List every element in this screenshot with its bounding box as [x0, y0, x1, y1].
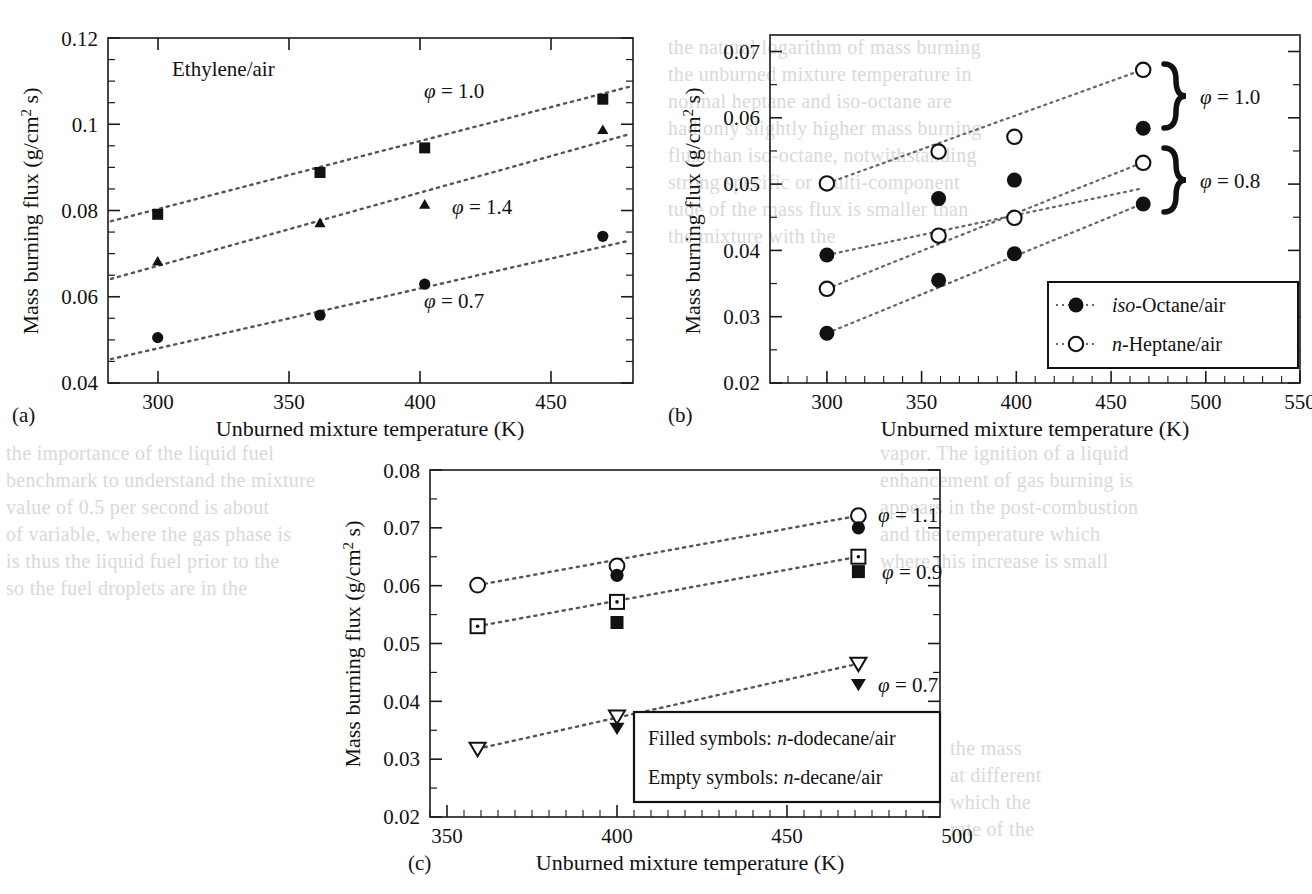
annotation-c-phi-0-7: φ = 0.7 [878, 673, 938, 697]
y-tick-label-c-5: 0.03 [383, 747, 420, 771]
x-tick-label-a-0: 300 [142, 390, 174, 414]
panel-b: 0.07 0.06 0.05 0.04 0.03 0.02 300 350 40… [660, 0, 1312, 440]
svg-text:Mass burning flux (g/cm2 s): Mass burning flux (g/cm2 s) [18, 87, 43, 334]
annotation-a-phi-0-7: φ = 0.7 [424, 289, 484, 313]
legend-c[interactable]: Filled symbols: n-dodecane/air Empty sym… [634, 712, 940, 802]
panel-a-svg: 0.12 0.1 0.08 0.06 0.04 300 350 400 450 … [0, 0, 660, 440]
y-tick-label-c-6: 0.02 [383, 805, 420, 829]
data-point-center [615, 600, 619, 604]
data-point [1136, 63, 1150, 77]
x-tick-label-c-0: 350 [431, 824, 463, 848]
x-tick-label-b-5: 550 [1284, 390, 1312, 414]
series-a-phi-1-4 [152, 124, 608, 265]
fit-line-b-heptane-1-0 [827, 70, 1142, 183]
x-tick-label-a-1: 350 [273, 390, 305, 414]
series-c-dodecane-0-9 [611, 565, 865, 629]
open-circle-icon [1069, 337, 1083, 351]
y-ticks-major-a [108, 38, 120, 383]
data-point [152, 332, 163, 343]
data-point [314, 310, 325, 321]
fit-line-b-octane-1-0 [827, 188, 1142, 255]
y-tick-label-a-3: 0.06 [61, 285, 98, 309]
series-c-dodecane-1-1 [610, 521, 865, 582]
annotation-a-phi-1-4: φ = 1.4 [452, 195, 513, 219]
y-ticks-minor-b [770, 85, 777, 350]
data-point [597, 124, 608, 134]
data-point [931, 229, 945, 243]
panel-a-caption: Ethylene/air [172, 57, 275, 81]
annotation-c-phi-0-9: φ = 0.9 [882, 560, 942, 584]
y-tick-label-c-4: 0.04 [383, 690, 420, 714]
legend-label-c-1: Empty symbols: n-decane/air [648, 766, 883, 789]
data-point [152, 256, 163, 266]
y-axis-title-b: Mass burning flux (g/cm2 s) [680, 87, 705, 334]
data-point [931, 273, 946, 288]
panel-c-svg: 0.08 0.07 0.06 0.05 0.04 0.03 0.02 350 4… [300, 440, 1020, 894]
x-tick-label-b-4: 500 [1190, 390, 1222, 414]
panel-label-a: (a) [12, 403, 35, 427]
x-tick-label-c-2: 450 [771, 824, 803, 848]
data-point [470, 578, 485, 593]
y-tick-label-b-3: 0.04 [723, 239, 760, 263]
panel-label-b: (b) [668, 403, 693, 427]
y-tick-label-c-2: 0.06 [383, 574, 420, 598]
legend-label-b-0: iso-Octane/air [1112, 294, 1226, 316]
x-tick-label-b-1: 350 [906, 390, 938, 414]
fit-line-a-phi-1-4 [111, 134, 630, 279]
data-point [852, 565, 865, 578]
data-point [610, 569, 623, 582]
brace-b-phi-0-8 [1164, 148, 1186, 212]
x-tick-label-c-3: 500 [941, 824, 973, 848]
data-point [851, 508, 866, 523]
data-point [931, 191, 946, 206]
data-point [597, 231, 608, 242]
annotation-c-phi-1-1: φ = 1.1 [878, 503, 938, 527]
series-b-heptane-0-8 [820, 156, 1151, 296]
data-point [609, 710, 625, 724]
data-point-center [476, 624, 480, 628]
data-point [611, 616, 624, 629]
y-axis-title-a: Mass burning flux (g/cm2 s) [18, 87, 43, 334]
fit-line-c-phi-1-1 [478, 516, 859, 585]
data-point [931, 144, 945, 158]
y-ticks-right-a [621, 38, 633, 383]
data-point [419, 142, 430, 153]
data-point [470, 743, 486, 757]
data-point [610, 723, 625, 735]
data-point [1007, 211, 1021, 225]
series-a-phi-1-0 [152, 94, 608, 220]
x-axis-title-c: Unburned mixture temperature (K) [536, 850, 845, 875]
panel-c: 0.08 0.07 0.06 0.05 0.04 0.03 0.02 350 4… [300, 440, 1020, 894]
x-axis-title-a: Unburned mixture temperature (K) [216, 416, 525, 441]
bleed-text-mid-left: the importance of the liquid fuel benchm… [6, 440, 315, 602]
y-tick-label-c-0: 0.08 [383, 459, 420, 483]
data-point [1007, 173, 1022, 188]
y-axis-title-c: Mass burning flux (g/cm2 s) [340, 520, 365, 767]
annotation-b-phi-0-8: φ = 0.8 [1200, 169, 1260, 193]
data-point [819, 326, 834, 341]
data-point [820, 282, 834, 296]
y-ticks-major-c [430, 470, 442, 817]
legend-b[interactable]: iso-Octane/air n-Heptane/air [1048, 282, 1298, 368]
svg-text:Mass burning flux (g/cm2 s): Mass burning flux (g/cm2 s) [340, 520, 365, 767]
fit-line-b-heptane-0-8 [827, 163, 1142, 289]
data-point [1136, 156, 1150, 170]
svg-text:Mass burning flux (g/cm2 s): Mass burning flux (g/cm2 s) [680, 87, 705, 334]
y-tick-label-b-5: 0.02 [723, 371, 760, 395]
annotation-b-phi-1-0: φ = 1.0 [1200, 85, 1260, 109]
annotation-a-phi-1-0: φ = 1.0 [424, 79, 484, 103]
data-point [314, 218, 325, 228]
x-tick-label-c-1: 400 [601, 824, 633, 848]
x-ticks-minor-b [788, 376, 1282, 383]
x-tick-label-b-3: 450 [1095, 390, 1127, 414]
panel-label-c: (c) [408, 851, 431, 875]
y-tick-label-b-1: 0.06 [723, 106, 760, 130]
y-tick-label-c-1: 0.07 [383, 516, 420, 540]
data-point [1007, 246, 1022, 261]
legend-label-c-0: Filled symbols: n-dodecane/air [648, 727, 896, 750]
data-point [1007, 130, 1021, 144]
x-axis-title-b: Unburned mixture temperature (K) [881, 416, 1190, 441]
fit-line-c-phi-0-9 [478, 557, 859, 627]
legend-box-c [634, 712, 940, 802]
plot-frame-a [108, 38, 633, 383]
